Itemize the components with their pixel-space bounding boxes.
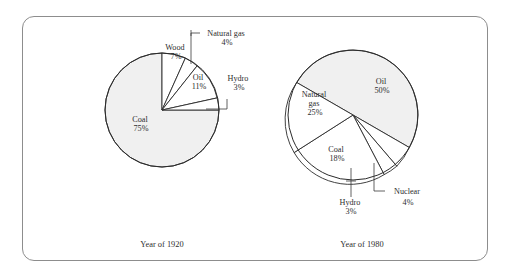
- pie-chart-1980: Oil 50% Natural gas 25% Coal 18% Hydro 3…: [285, 50, 422, 249]
- leader-natural-gas-1920: [191, 30, 200, 36]
- label-oil-1920: Oil 11%: [192, 73, 207, 91]
- pie-chart-1920: Coal 75% Wood 7% Natural gas 4% Oil 11% …: [105, 29, 250, 249]
- label-coal-1920: Coal 75%: [132, 115, 150, 133]
- label-hydro-1920: Hydro 3%: [228, 74, 251, 92]
- pie-charts-canvas: Coal 75% Wood 7% Natural gas 4% Oil 11% …: [0, 0, 509, 280]
- figure-page: Coal 75% Wood 7% Natural gas 4% Oil 11% …: [0, 0, 509, 280]
- label-hydro-1980: Hydro 3%: [340, 198, 363, 216]
- caption-1920: Year of 1920: [140, 240, 183, 249]
- label-oil-1980: Oil 50%: [374, 77, 389, 95]
- caption-1980: Year of 1980: [340, 240, 383, 249]
- label-natural-gas-1920: Natural gas 4%: [207, 29, 247, 47]
- label-nuclear-1980: Nuclear 4%: [394, 187, 422, 207]
- label-coal-1980: Coal 18%: [328, 145, 346, 163]
